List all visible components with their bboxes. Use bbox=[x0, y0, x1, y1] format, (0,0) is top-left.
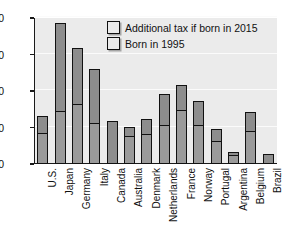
x-tick-label: Portugal bbox=[220, 168, 231, 205]
x-tick-label: Belgium bbox=[255, 168, 266, 204]
legend-label: Born in 1995 bbox=[125, 38, 185, 50]
bar-segment-born-1995[interactable] bbox=[160, 125, 169, 163]
bar-segment-born-1995[interactable] bbox=[212, 141, 221, 163]
x-tick-label: Brazil bbox=[272, 168, 283, 193]
bar-segment-born-1995[interactable] bbox=[73, 104, 82, 163]
bar-total[interactable] bbox=[55, 23, 66, 164]
x-tick-label: Canada bbox=[116, 168, 127, 203]
bar-total[interactable] bbox=[159, 94, 170, 164]
x-tick-label: Germany bbox=[81, 168, 92, 209]
bar-segment-born-1995[interactable] bbox=[194, 125, 203, 163]
y-tick-label: 200 bbox=[0, 85, 4, 97]
chart-legend: Additional tax if born in 2015 Born in 1… bbox=[107, 21, 258, 50]
bar-segment-born-1995[interactable] bbox=[56, 111, 65, 163]
x-tick-label: Norway bbox=[203, 168, 214, 202]
x-tick-label: Netherlands bbox=[168, 168, 179, 222]
x-tick-label: Argentina bbox=[238, 168, 249, 211]
legend-item: Born in 1995 bbox=[107, 37, 258, 50]
y-tick-label: 400 bbox=[0, 12, 4, 24]
bar-total[interactable] bbox=[89, 69, 100, 164]
bar-segment-born-1995[interactable] bbox=[90, 123, 99, 163]
bar-total[interactable] bbox=[72, 48, 83, 164]
gridline bbox=[35, 16, 277, 17]
legend-swatch-additional-tax bbox=[107, 21, 120, 34]
x-axis-labels: U.S.JapanGermanyItalyCanadaAustraliaDenm… bbox=[34, 166, 277, 245]
x-tick-label: Italy bbox=[99, 168, 110, 186]
legend-swatch-born-1995 bbox=[107, 37, 120, 50]
x-tick-label: Australia bbox=[133, 168, 144, 207]
bar-segment-born-1995[interactable] bbox=[177, 110, 186, 163]
x-tick-label: Japan bbox=[64, 168, 75, 195]
x-tick-label: U.S. bbox=[47, 168, 58, 187]
bar-total[interactable] bbox=[211, 129, 222, 164]
bar-slot bbox=[89, 18, 100, 164]
y-tick-label: 100 bbox=[0, 122, 4, 134]
bar-total[interactable] bbox=[141, 119, 152, 164]
chart-container: 0100200300400 U.S.JapanGermanyItalyCanad… bbox=[0, 0, 285, 245]
bar-slot bbox=[263, 18, 274, 164]
bar-segment-born-1995[interactable] bbox=[38, 133, 47, 163]
bar-total[interactable] bbox=[245, 112, 256, 164]
legend-label: Additional tax if born in 2015 bbox=[125, 22, 258, 34]
bar-segment-born-1995[interactable] bbox=[125, 136, 134, 163]
y-tick-label: 0 bbox=[0, 158, 4, 170]
bar-slot bbox=[72, 18, 83, 164]
bar-total[interactable] bbox=[228, 152, 239, 164]
bar-segment-born-1995[interactable] bbox=[246, 131, 255, 163]
bar-total[interactable] bbox=[176, 85, 187, 164]
bar-total[interactable] bbox=[124, 127, 135, 164]
bar-total[interactable] bbox=[37, 116, 48, 164]
bar-slot bbox=[37, 18, 48, 164]
bar-total[interactable] bbox=[107, 121, 118, 164]
bar-slot bbox=[55, 18, 66, 164]
bar-segment-born-1995[interactable] bbox=[142, 134, 151, 163]
legend-item: Additional tax if born in 2015 bbox=[107, 21, 258, 34]
bar-segment-born-1995[interactable] bbox=[229, 155, 238, 163]
x-tick-label: France bbox=[186, 168, 197, 199]
x-tick-label: Denmark bbox=[151, 168, 162, 209]
bar-total[interactable] bbox=[263, 154, 274, 164]
y-tick-label: 300 bbox=[0, 49, 4, 61]
bar-total[interactable] bbox=[193, 101, 204, 164]
